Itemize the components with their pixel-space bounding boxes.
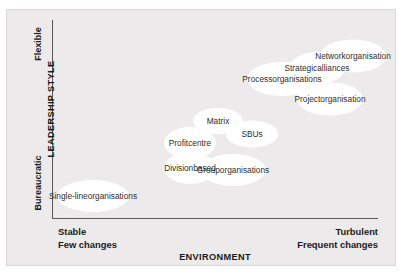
x-axis-high-label: Turbulent Frequent changes (297, 226, 378, 251)
x-axis-high-label-line2: Frequent changes (297, 239, 378, 252)
x-axis-low-label: Stable Few changes (58, 226, 117, 251)
x-axis-title: ENVIRONMENT (52, 252, 378, 262)
y-axis-high-label: Flexible (33, 1, 43, 87)
figure-container: LEADERSHIP STYLE ENVIRONMENT Flexible Bu… (0, 0, 402, 280)
x-axis-low-label-line2: Few changes (58, 239, 117, 252)
x-axis-low-label-line1: Stable (58, 226, 86, 237)
y-axis-low-label: Bureaucratic (33, 140, 43, 226)
y-axis-title: LEADERSHIP STYLE (46, 14, 56, 204)
x-axis-line (52, 218, 378, 219)
x-axis-high-label-line1: Turbulent (335, 226, 378, 237)
